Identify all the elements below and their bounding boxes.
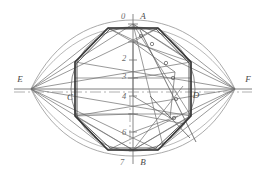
point-marker-1 bbox=[150, 42, 153, 45]
construction-point-markers bbox=[139, 34, 177, 119]
label-division-0: 0 bbox=[121, 11, 126, 21]
point-marker-2 bbox=[164, 61, 167, 64]
construction-drawing-canvas: 0 A 2 3 4 6 7 B E F C D bbox=[0, 0, 265, 181]
label-vertex-B: B bbox=[140, 157, 146, 167]
line-top-left-to-axis-1 bbox=[108, 28, 133, 42]
label-division-3: 3 bbox=[121, 71, 126, 81]
label-division-4: 4 bbox=[122, 91, 127, 101]
line-0-to-bottom-right bbox=[133, 24, 163, 146]
label-vertex-A: A bbox=[139, 11, 146, 21]
label-point-D: D bbox=[192, 90, 200, 100]
label-apex-E: E bbox=[16, 74, 23, 84]
ray-F-to-vertex-upper bbox=[75, 62, 235, 89]
ray-F-to-vertex-lower bbox=[75, 89, 235, 116]
rays-from-E bbox=[31, 24, 191, 150]
ray-E-to-vertex-lower bbox=[31, 89, 191, 116]
label-division-7: 7 bbox=[120, 157, 125, 167]
label-apex-F: F bbox=[244, 74, 251, 84]
rays-from-F bbox=[75, 24, 235, 150]
geometric-figure: 0 A 2 3 4 6 7 B E F C D bbox=[0, 0, 265, 181]
ray-E-to-octagon-tl bbox=[31, 28, 108, 89]
label-point-C: C bbox=[67, 92, 74, 102]
ray-F-to-octagon-tr bbox=[158, 28, 235, 89]
label-division-6: 6 bbox=[122, 127, 127, 137]
label-division-2: 2 bbox=[122, 53, 127, 63]
